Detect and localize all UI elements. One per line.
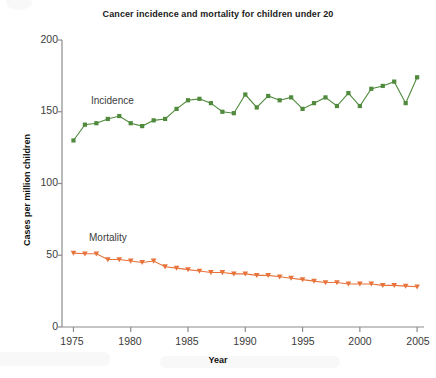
data-point — [381, 84, 385, 88]
axis-ticks — [57, 40, 417, 332]
series-line — [73, 77, 417, 140]
data-point — [312, 101, 316, 105]
data-point — [117, 114, 121, 118]
data-point — [255, 105, 259, 109]
series-incidence — [71, 75, 419, 142]
data-point — [289, 95, 293, 99]
data-point — [232, 111, 236, 115]
data-point — [186, 98, 190, 102]
data-point — [335, 104, 339, 108]
data-point — [278, 98, 282, 102]
chart-figure: Cancer incidence and mortality for child… — [0, 0, 436, 378]
data-point — [358, 104, 362, 108]
data-point — [369, 87, 373, 91]
data-point — [71, 138, 75, 142]
data-point — [209, 101, 213, 105]
data-point — [197, 97, 201, 101]
data-point — [415, 75, 419, 79]
data-point — [163, 117, 167, 121]
data-point — [152, 118, 156, 122]
data-point — [220, 110, 224, 114]
data-series-layer — [71, 75, 420, 289]
data-point — [266, 94, 270, 98]
series-line — [73, 253, 417, 287]
data-point — [94, 121, 98, 125]
data-point — [106, 117, 110, 121]
series-mortality — [71, 251, 420, 290]
data-point — [243, 92, 247, 96]
plot-area — [0, 0, 436, 378]
data-point — [323, 95, 327, 99]
data-point — [392, 80, 396, 84]
data-point — [300, 107, 304, 111]
data-point — [83, 123, 87, 127]
data-point — [174, 107, 178, 111]
data-point — [346, 91, 350, 95]
data-point — [140, 124, 144, 128]
data-point — [129, 121, 133, 125]
data-point — [404, 101, 408, 105]
